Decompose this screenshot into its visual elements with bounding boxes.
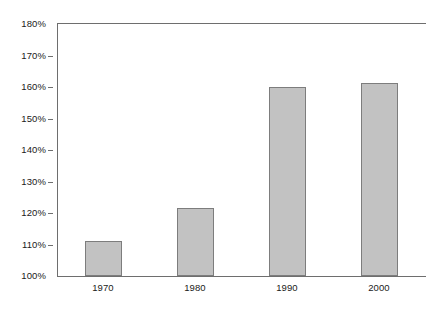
y-axis-tick-label: 170%: [21, 49, 46, 62]
y-axis-tick-label: 150%: [21, 112, 46, 125]
y-axis-tick-label: 180%: [21, 17, 46, 30]
y-axis-tick-mark: [48, 150, 53, 151]
bar-chart: 100%110%120%130%140%150%160%170%180% 197…: [0, 0, 435, 312]
y-axis-tick-label: 160%: [21, 80, 46, 93]
bar-1970[interactable]: [85, 241, 122, 276]
bar-1990[interactable]: [269, 87, 306, 276]
y-axis-tick-label: 110%: [22, 238, 46, 251]
y-axis-tick-label: 120%: [21, 206, 46, 219]
x-axis-tick-label: 1970: [57, 281, 149, 294]
y-axis-tick-mark: [48, 213, 53, 214]
y-axis-tick-label: 140%: [21, 143, 46, 156]
y-axis-tick-mark: [48, 182, 53, 183]
bar-2000[interactable]: [361, 83, 398, 276]
y-axis-tick-mark: [48, 245, 53, 246]
y-axis-tick-label: 100%: [21, 269, 46, 282]
y-axis-tick-mark: [48, 119, 53, 120]
y-axis-tick-mark: [48, 56, 53, 57]
y-axis-tick-label: 130%: [21, 175, 46, 188]
bar-1980[interactable]: [177, 208, 214, 276]
x-axis-tick-label: 2000: [333, 281, 425, 294]
x-axis-tick-label: 1990: [241, 281, 333, 294]
x-axis-line: [57, 276, 426, 277]
y-axis-tick-mark: [48, 87, 53, 88]
plot-area: [57, 24, 425, 276]
x-axis-tick-label: 1980: [149, 281, 241, 294]
